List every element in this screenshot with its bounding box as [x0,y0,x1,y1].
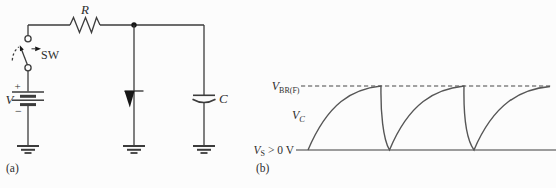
circuit-and-waveform-figure: R SW + V − C (a) VBR(F) VC VS> 0 V (b) [0,0,556,188]
caption-b: (b) [256,162,270,175]
switch-label: SW [41,48,60,62]
switch-terminal-bottom [25,65,31,71]
waveform-panel [296,86,556,150]
source-voltage-label: V [6,92,16,107]
capacitor-voltage-label: VC [292,108,305,124]
switch-blade [22,50,28,65]
supply-voltage-label: VS> 0 V [253,144,294,159]
capacitor-voltage-waveform [308,86,550,150]
caption-a: (a) [6,162,19,175]
switch-terminal-top [25,36,31,42]
battery-minus-label: − [15,104,22,118]
ground-icon [17,146,39,153]
resistor-symbol [70,18,100,33]
resistor-label: R [80,2,89,17]
switch-motion-arc [12,47,18,61]
circuit-panel [12,18,216,154]
capacitor-label: C [219,91,228,106]
battery-plus-label: + [14,80,20,92]
figure-canvas: R SW + V − C (a) VBR(F) VC VS> 0 V (b) [0,0,556,188]
ground-icon [123,146,145,153]
switch-blade-arrowhead-icon [20,45,24,51]
capacitor-symbol [193,95,216,102]
ground-icon [193,146,215,153]
breakover-voltage-label: VBR(F) [272,79,300,95]
